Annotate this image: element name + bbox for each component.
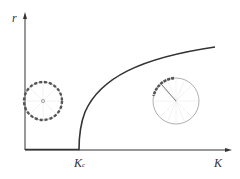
- order-parameter-arrow: [162, 85, 176, 101]
- y-axis-arrow-icon: [23, 12, 27, 19]
- synchronized-circle: [153, 78, 199, 124]
- x-axis-label: K: [214, 157, 222, 169]
- axes: [25, 16, 228, 150]
- order-parameter-curve: [25, 47, 215, 150]
- order-parameter-diagram: [0, 0, 240, 179]
- y-axis-label: r: [12, 12, 17, 24]
- critical-subscript: c: [82, 161, 85, 169]
- x-axis-arrow-icon: [225, 148, 232, 152]
- critical-label: K: [74, 156, 82, 170]
- incoherent-circle: [24, 82, 62, 120]
- critical-coupling-label: Kc: [74, 157, 85, 169]
